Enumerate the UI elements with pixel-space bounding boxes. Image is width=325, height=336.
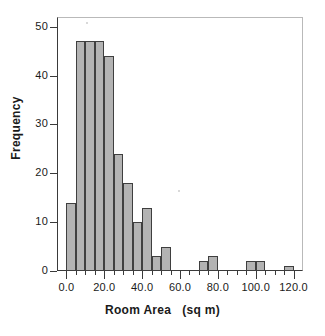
x-axis-tick-label: 20.0: [93, 281, 115, 293]
x-axis-major-tick: [142, 271, 143, 279]
scan-artifact: [86, 22, 88, 24]
y-axis-title: Frequency: [9, 73, 23, 183]
histogram-figure: 01020304050 0.020.040.060.080.0100.0120.…: [0, 0, 325, 336]
y-axis-tick: [50, 27, 57, 28]
x-axis-tick-label: 60.0: [169, 281, 191, 293]
x-axis-major-tick: [218, 271, 219, 279]
y-axis-tick: [50, 271, 57, 272]
x-axis-tick-label: 0.0: [59, 281, 75, 293]
x-axis-minor-tick: [76, 271, 77, 275]
y-axis-tick-label: 10: [35, 215, 48, 227]
y-axis-tick: [50, 76, 57, 77]
x-axis-tick-label: 100.0: [241, 281, 270, 293]
y-axis-tick-label: 30: [35, 117, 48, 129]
y-axis-tick-label: 50: [35, 20, 48, 32]
x-axis-minor-tick: [284, 271, 285, 275]
x-axis-title: Room Area (sq m): [0, 303, 325, 317]
x-axis-minor-tick: [189, 271, 190, 275]
y-axis-tick-label: 40: [35, 69, 48, 81]
x-axis-minor-tick: [199, 271, 200, 275]
x-axis-minor-tick: [95, 271, 96, 275]
x-axis-minor-tick: [227, 271, 228, 275]
y-axis-tick-label: 20: [35, 166, 48, 178]
x-axis-major-tick: [180, 271, 181, 279]
x-axis-minor-tick: [85, 271, 86, 275]
x-axis-minor-tick: [133, 271, 134, 275]
y-axis: 01020304050: [0, 0, 325, 336]
x-axis-minor-tick: [114, 271, 115, 275]
y-axis-tick: [50, 124, 57, 125]
y-axis-tick: [50, 222, 57, 223]
x-axis-major-tick: [256, 271, 257, 279]
x-axis-minor-tick: [275, 271, 276, 275]
y-axis-tick-label: 0: [42, 264, 48, 276]
x-axis-tick-label: 80.0: [207, 281, 229, 293]
x-axis-minor-tick: [152, 271, 153, 275]
x-axis-major-tick: [66, 271, 67, 279]
x-axis-tick-label: 120.0: [279, 281, 308, 293]
x-axis-minor-tick: [171, 271, 172, 275]
scan-artifact: [178, 190, 180, 192]
x-axis-minor-tick: [161, 271, 162, 275]
x-axis-minor-tick: [265, 271, 266, 275]
x-axis-major-tick: [294, 271, 295, 279]
x-axis-tick-label: 40.0: [131, 281, 153, 293]
x-axis-minor-tick: [237, 271, 238, 275]
y-axis-tick: [50, 173, 57, 174]
x-axis-major-tick: [104, 271, 105, 279]
x-axis-minor-tick: [208, 271, 209, 275]
x-axis-minor-tick: [123, 271, 124, 275]
x-axis-minor-tick: [246, 271, 247, 275]
